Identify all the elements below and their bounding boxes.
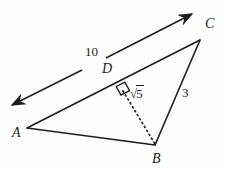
measurement-line-left-half — [12, 70, 82, 105]
vertex-label-d: D — [102, 62, 112, 76]
radicand-value: 5 — [136, 85, 144, 101]
triangle-sides — [27, 40, 200, 145]
length-label-db: √5 — [130, 87, 144, 100]
length-label-bc: 3 — [182, 86, 189, 99]
vertex-label-a: A — [12, 126, 21, 140]
segment-ab — [27, 128, 155, 145]
measurement-line-ac — [12, 14, 192, 105]
vertex-label-c: C — [205, 17, 214, 31]
right-angle-marker-at-d — [116, 82, 129, 95]
length-label-ac: 10 — [85, 45, 98, 58]
vertex-label-b: B — [152, 152, 161, 166]
geometry-canvas — [0, 0, 225, 169]
geometry-figure: A B C D 10 √5 3 — [0, 0, 225, 169]
segment-bc — [155, 40, 200, 145]
